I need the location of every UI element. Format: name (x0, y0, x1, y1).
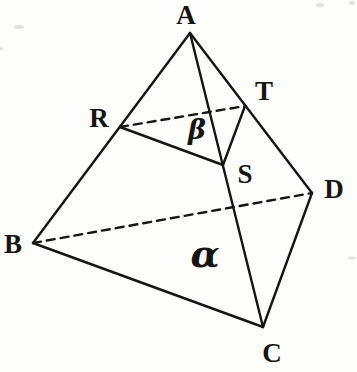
segment-RS (120, 127, 223, 165)
vertex-label-T: T (255, 76, 273, 106)
scan-artifact-speck (348, 257, 356, 260)
vertex-label-B: B (4, 229, 22, 259)
geometry-diagram: ABCDRSTβα (0, 0, 357, 372)
figure-canvas: ABCDRSTβα (0, 0, 357, 372)
plane-beta-label: β (187, 114, 206, 145)
plane-alpha-label: α (190, 231, 219, 276)
edge-AB (33, 33, 190, 243)
segment-ST (223, 106, 245, 165)
segment-RT (120, 106, 245, 127)
edge-CD (263, 193, 312, 327)
scan-artifact-speck (14, 25, 24, 29)
vertex-label-A: A (176, 0, 196, 30)
vertex-label-C: C (262, 338, 282, 368)
vertex-label-R: R (89, 103, 109, 133)
vertex-label-D: D (324, 174, 344, 204)
edge-BD (33, 193, 312, 243)
edge-BC (33, 243, 263, 327)
scan-artifact-speck (349, 1, 355, 5)
vertex-label-S: S (237, 159, 252, 189)
scan-artifact-speck (316, 3, 324, 7)
scan-artifact-speck (0, 48, 3, 51)
